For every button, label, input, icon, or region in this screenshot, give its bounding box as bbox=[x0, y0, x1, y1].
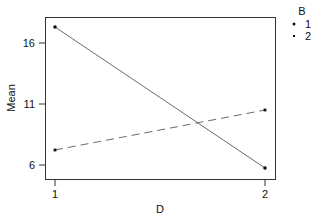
x-axis-title: D bbox=[156, 203, 164, 215]
series-1-line bbox=[55, 27, 265, 168]
series-2-point bbox=[54, 149, 57, 152]
interaction-plot: 16 11 6 Mean 1 2 D B 1 2 bbox=[0, 0, 323, 224]
legend-label: 1 bbox=[305, 18, 311, 30]
x-axis: 1 2 D bbox=[52, 180, 268, 215]
legend-marker-2 bbox=[293, 35, 295, 37]
x-tick-label: 1 bbox=[52, 188, 58, 200]
series-2-line bbox=[55, 110, 265, 150]
y-tick-label: 6 bbox=[29, 159, 35, 171]
legend-title: B bbox=[298, 5, 305, 17]
series-2-point bbox=[264, 109, 267, 112]
y-tick-label: 11 bbox=[24, 98, 35, 110]
y-axis: 16 11 6 Mean bbox=[5, 37, 45, 171]
series-1-point bbox=[53, 25, 57, 29]
legend: B 1 2 bbox=[293, 5, 312, 42]
series-1-point bbox=[263, 166, 267, 170]
y-axis-title: Mean bbox=[5, 84, 17, 112]
series-2 bbox=[54, 109, 267, 152]
y-tick-label: 16 bbox=[23, 37, 35, 49]
legend-marker-1 bbox=[293, 23, 296, 26]
series-1 bbox=[53, 25, 267, 170]
legend-label: 2 bbox=[305, 30, 311, 42]
plot-frame bbox=[46, 18, 276, 180]
x-tick-label: 2 bbox=[262, 188, 268, 200]
